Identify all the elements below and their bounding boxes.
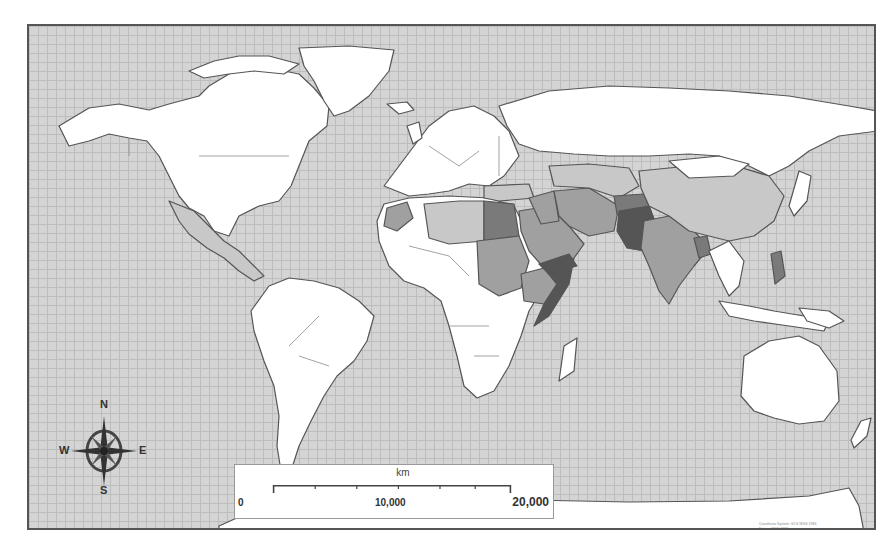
map-frame: N S W E km 0 10,000 20,000 Coordinate Sy… (27, 24, 876, 530)
scale-bar: km 0 10,000 20,000 (234, 464, 554, 519)
compass-icon (59, 396, 149, 496)
world-map (29, 26, 876, 530)
compass-west-label: W (59, 444, 69, 456)
turkey (484, 184, 534, 201)
crs-line-2: Datum: WGS 1984 (759, 527, 816, 531)
compass-rose: N S W E (59, 396, 149, 496)
sudan (477, 236, 529, 296)
south-america (251, 278, 374, 481)
coordinate-system-note: Coordinate System: GCS WGS 1984 Datum: W… (759, 522, 816, 530)
egypt (484, 201, 519, 241)
scale-ruler (243, 485, 541, 493)
compass-north-label: N (100, 398, 108, 410)
scale-label-0: 0 (238, 497, 244, 508)
philippines (771, 251, 785, 284)
north-africa (424, 201, 484, 244)
scale-unit-label: km (235, 467, 553, 478)
scale-label-10000: 10,000 (375, 497, 406, 508)
crs-line-1: Coordinate System: GCS WGS 1984 (759, 522, 816, 527)
compass-east-label: E (139, 444, 146, 456)
compass-south-label: S (100, 484, 107, 496)
scale-label-20000: 20,000 (512, 495, 549, 509)
australia (741, 336, 839, 424)
